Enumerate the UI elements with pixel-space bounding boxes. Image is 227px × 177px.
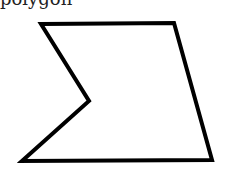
diagram-canvas [0,0,227,177]
concave-pentagon-shape [22,23,212,161]
